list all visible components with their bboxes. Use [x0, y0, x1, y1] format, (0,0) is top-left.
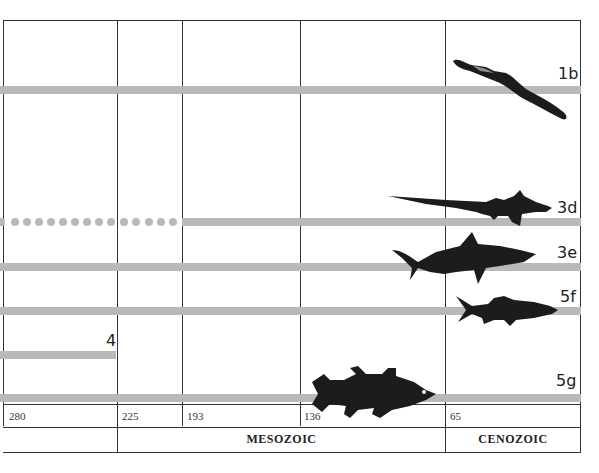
lineage-label-5g: 5g: [556, 371, 576, 390]
era-bottom-line: [3, 452, 581, 453]
lineage-bar-4: [0, 351, 116, 359]
lineage-label-4: 4: [106, 331, 116, 350]
evolution-timeline-diagram: 1b 3d 3e 5f 4 5g 280 225 193 136 65 MESO…: [0, 0, 599, 473]
eel-icon: [450, 55, 572, 125]
era-label-cenozoic: CENOZOIC: [446, 432, 580, 447]
shark-icon: [390, 228, 538, 290]
time-tick-193: 193: [187, 410, 204, 422]
coelacanth-icon: [310, 364, 440, 422]
divider-225: [117, 20, 118, 452]
lineage-label-3e: 3e: [557, 243, 577, 262]
era-top-line: [3, 427, 581, 428]
top-border: [3, 20, 581, 21]
frilled-shark-icon: [386, 186, 556, 230]
time-tick-225: 225: [122, 410, 139, 422]
bony-fish-icon: [454, 292, 560, 328]
lineage-label-5f: 5f: [560, 287, 576, 306]
lineage-label-1b: 1b: [558, 64, 578, 83]
time-tick-136: 136: [304, 410, 321, 422]
lineage-bar-5g: [0, 394, 581, 402]
time-tick-280: 280: [9, 410, 26, 422]
time-tick-65: 65: [450, 410, 461, 422]
right-border: [580, 20, 581, 452]
era-label-mesozoic: MESOZOIC: [118, 432, 445, 447]
ticks-top-line: [3, 404, 581, 405]
lineage-label-3d: 3d: [557, 198, 577, 217]
